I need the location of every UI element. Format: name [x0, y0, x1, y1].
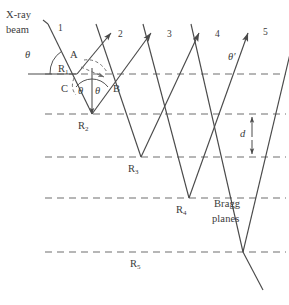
- point-C-label: C: [61, 83, 68, 94]
- point-B-label: B: [113, 83, 120, 94]
- bragg-planes-label-line2: planes: [212, 213, 239, 224]
- ray-1-label: 1: [58, 24, 63, 34]
- ray-5-label: 5: [263, 28, 268, 38]
- ray-4-label: 4: [215, 30, 220, 40]
- ray-3-label: 3: [167, 30, 172, 40]
- theta-right-label: θ: [95, 85, 100, 96]
- bragg-planes-label-line1: Bragg: [214, 198, 240, 209]
- xray-beam-leader: [43, 20, 48, 24]
- point-R2-label: R2: [78, 120, 89, 133]
- ray-2-label: 2: [118, 30, 123, 40]
- theta-left-label: θ: [78, 85, 83, 96]
- scattered-ray-4: [189, 33, 248, 198]
- incident-beam-3: [143, 24, 189, 198]
- scattered-ray-3: [141, 33, 199, 157]
- point-R1-label: R1: [58, 63, 69, 76]
- point-R4-label: R4: [176, 204, 187, 217]
- theta-incident-label: θ: [25, 49, 30, 60]
- point-R3-label: R3: [128, 163, 139, 176]
- scattered-ray-5: [243, 33, 289, 252]
- d-spacing-label: d: [240, 128, 245, 139]
- point-A-label: A: [70, 49, 78, 60]
- incident-beam-main: [48, 24, 92, 114]
- theta-prime-label: θ′: [228, 51, 236, 62]
- incident-beam-transmitted: [243, 252, 263, 290]
- scattered-rays-group: [77, 33, 289, 252]
- xray-beam-label-line1: X-ray: [6, 9, 31, 20]
- bragg-diagram-canvas: [0, 0, 289, 305]
- xray-beam-label-line2: beam: [6, 24, 29, 35]
- point-R5-label: R5: [130, 258, 141, 271]
- bragg-diffraction-figure: X-ray beam θ R1 A C B θ θ R2 R3 R4 R5 1 …: [0, 0, 289, 305]
